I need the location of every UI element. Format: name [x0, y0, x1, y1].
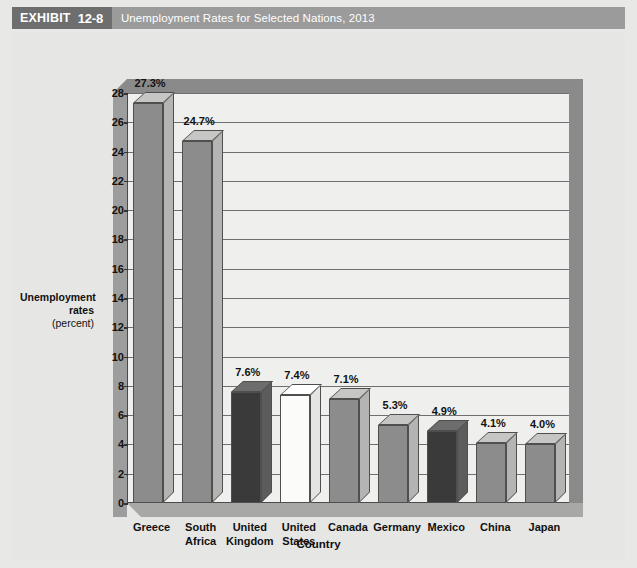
- chart-figure: 0246810121416182022242628 Unemployment r…: [12, 33, 625, 560]
- y-axis-tick-label: 12: [98, 321, 124, 333]
- bar-value-label: 4.1%: [481, 417, 506, 429]
- exhibit-figure-page: EXHIBIT 12-8 Unemployment Rates for Sele…: [0, 0, 637, 568]
- bar-column[interactable]: 4.0%: [525, 444, 555, 503]
- bar-side-face: [310, 384, 321, 503]
- bar-column[interactable]: 24.7%: [182, 141, 212, 503]
- bar-value-label: 24.7%: [184, 115, 215, 127]
- bar-side-face: [506, 432, 517, 503]
- bar-front-face: [280, 395, 310, 503]
- bar-value-label: 4.0%: [530, 418, 555, 430]
- bar-front-face: [231, 392, 261, 503]
- bar-column[interactable]: 5.3%: [378, 425, 408, 503]
- bar-front-face: [329, 399, 359, 503]
- bar-front-face: [133, 103, 163, 503]
- bar-column[interactable]: 27.3%: [133, 103, 163, 503]
- y-axis-tick-label: 28: [98, 87, 124, 99]
- y-axis-title-line3: (percent): [20, 317, 94, 330]
- exhibit-number-label: 12-8: [78, 11, 103, 26]
- chart-floor-shelf: [127, 503, 583, 517]
- exhibit-word-label: EXHIBIT: [20, 11, 71, 25]
- bar-value-label: 4.9%: [432, 405, 457, 417]
- bar-value-label: 7.4%: [284, 369, 309, 381]
- x-axis-category-label-line: Japan: [510, 520, 579, 534]
- y-axis-tick-label: 14: [98, 292, 124, 304]
- y-axis-tick-label: 2: [98, 468, 124, 480]
- bar-column[interactable]: 4.9%: [427, 431, 457, 503]
- y-axis-tick-label: 10: [98, 351, 124, 363]
- bar-side-face: [359, 388, 370, 503]
- bar-column[interactable]: 7.4%: [280, 395, 310, 503]
- y-axis-tick-label: 18: [98, 233, 124, 245]
- bar-column[interactable]: 4.1%: [476, 443, 506, 503]
- bar-value-label: 5.3%: [383, 399, 408, 411]
- y-axis-tick-mark: [124, 503, 128, 505]
- chart-wall-top: [113, 79, 583, 93]
- exhibit-header-band: EXHIBIT 12-8 Unemployment Rates for Sele…: [12, 7, 625, 29]
- bar-value-label: 27.3%: [134, 77, 165, 89]
- bar-series-group: 27.3%24.7%7.6%7.4%7.1%5.3%4.9%4.1%4.0%: [127, 93, 569, 503]
- y-axis-tick-label: 26: [98, 116, 124, 128]
- bar-front-face: [427, 431, 457, 503]
- bar-front-face: [476, 443, 506, 503]
- bar-side-face: [261, 381, 272, 503]
- y-axis-tick-labels: 0246810121416182022242628: [94, 93, 124, 503]
- y-axis-title: Unemployment rates (percent): [20, 291, 94, 330]
- bar-value-label: 7.6%: [235, 366, 260, 378]
- y-axis-tick-label: 16: [98, 263, 124, 275]
- y-axis-tick-label: 4: [98, 438, 124, 450]
- y-axis-title-line1: Unemployment: [20, 291, 94, 304]
- exhibit-number-tag: EXHIBIT 12-8: [12, 7, 112, 29]
- y-axis-tick-label: 20: [98, 204, 124, 216]
- y-axis-tick-label: 24: [98, 146, 124, 158]
- bar-front-face: [182, 141, 212, 503]
- bar-side-face: [163, 92, 174, 503]
- x-axis-category-label: Japan: [510, 520, 579, 534]
- y-axis-title-line2: rates: [20, 304, 94, 317]
- exhibit-title-text: Unemployment Rates for Selected Nations,…: [112, 12, 375, 24]
- y-axis-tick-label: 6: [98, 409, 124, 421]
- bar-column[interactable]: 7.1%: [329, 399, 359, 503]
- y-axis-tick-label: 22: [98, 175, 124, 187]
- bar-side-face: [212, 130, 223, 503]
- bar-front-face: [378, 425, 408, 503]
- y-axis-tick-label: 8: [98, 380, 124, 392]
- chart-wall-right: [569, 79, 583, 517]
- y-axis-tick-label: 0: [98, 497, 124, 509]
- bar-side-face: [555, 433, 566, 503]
- bar-column[interactable]: 7.6%: [231, 392, 261, 503]
- bar-side-face: [457, 420, 468, 503]
- bar-front-face: [525, 444, 555, 503]
- x-axis-title: Country: [12, 538, 625, 550]
- bar-value-label: 7.1%: [333, 373, 358, 385]
- bar-side-face: [408, 414, 419, 503]
